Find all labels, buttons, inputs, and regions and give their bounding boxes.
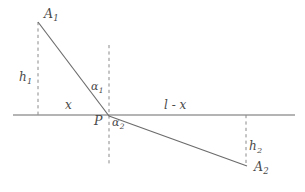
geometry-figure: A1 h1 x α1 P α2 l - x h2 A2 [0,0,305,192]
label-h1-subscript: 1 [27,76,32,86]
label-angle-alpha2: α2 [112,117,124,128]
label-a2-subscript: 2 [263,166,268,176]
label-alpha2-subscript: 2 [120,122,125,131]
label-a1-subscript: 1 [53,13,58,23]
label-segment-l-minus-x: l - x [164,99,186,111]
label-segment-x: x [65,99,72,111]
label-point-p: P [94,115,102,128]
ray-refracted [109,116,247,166]
label-point-a1: A1 [44,8,58,21]
label-alpha1-subscript: 1 [99,86,104,95]
label-a2-base: A [254,159,263,174]
label-a1-base: A [44,6,53,21]
label-h1-base: h [19,70,27,84]
label-height-h1: h1 [19,71,32,83]
label-l-minus-x-text: l - x [164,98,186,112]
ray-incident [38,22,109,116]
label-angle-alpha1: α1 [91,81,103,92]
label-p-text: P [94,113,102,128]
label-x-text: x [65,98,72,112]
label-alpha1-base: α [91,80,98,93]
label-h2-subscript: 2 [257,145,262,155]
label-height-h2: h2 [249,140,262,152]
label-h2-base: h [249,139,257,153]
label-point-a2: A2 [254,161,268,174]
label-alpha2-base: α [112,116,119,129]
